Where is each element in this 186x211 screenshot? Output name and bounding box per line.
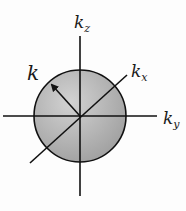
ky-label: ky [163, 108, 180, 131]
kx-label: kx [131, 61, 148, 84]
k-space-diagram: kz k kx ky [0, 0, 186, 211]
k-label: k [27, 61, 39, 85]
kz-label: kz [74, 12, 90, 35]
diagram-canvas: kz k kx ky [0, 0, 186, 211]
